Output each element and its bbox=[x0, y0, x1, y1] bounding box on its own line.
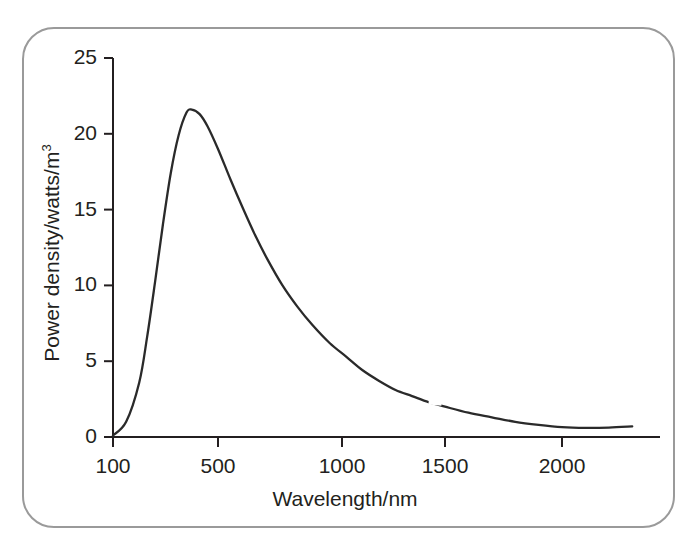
axes-group bbox=[113, 58, 660, 437]
power-density-curve bbox=[113, 109, 632, 435]
y-tick-label: 0 bbox=[37, 424, 97, 448]
x-tick-label: 1000 bbox=[302, 454, 382, 478]
y-tick-label: 20 bbox=[37, 121, 97, 145]
curve-scan-gap-artifact bbox=[428, 400, 441, 406]
y-tick-label: 5 bbox=[37, 348, 97, 372]
x-tick-label: 1500 bbox=[405, 454, 485, 478]
y-tick-label: 10 bbox=[37, 272, 97, 296]
y-tick-label: 15 bbox=[37, 197, 97, 221]
x-tick-label: 2000 bbox=[522, 454, 602, 478]
x-tick-label: 500 bbox=[178, 454, 258, 478]
y-axis-title-exponent: 3 bbox=[39, 144, 54, 151]
x-tick-marks bbox=[113, 437, 562, 447]
plot-area: Wavelength/nm Power density/watts/m3 100… bbox=[0, 0, 690, 548]
y-axis-title-text: Power density/watts/m bbox=[40, 152, 63, 362]
y-tick-label: 25 bbox=[37, 45, 97, 69]
x-tick-label: 100 bbox=[73, 454, 153, 478]
x-axis-title: Wavelength/nm bbox=[0, 487, 690, 511]
y-tick-marks bbox=[104, 58, 113, 437]
